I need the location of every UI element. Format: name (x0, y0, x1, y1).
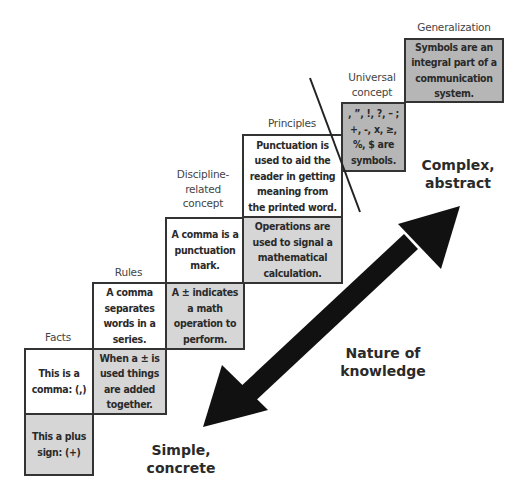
double-headed-arrow-icon (203, 206, 460, 427)
nature-of-knowledge-label: Nature of knowledge (328, 345, 438, 380)
simple-concrete-label: Simple, concrete (130, 442, 232, 477)
knowledge-staircase-diagram: Facts Rules Discipline- related concept … (0, 0, 528, 493)
complex-abstract-label: Complex, abstract (408, 157, 508, 192)
abstraction-divider-line (310, 78, 360, 212)
diagram-overlay (0, 0, 528, 493)
